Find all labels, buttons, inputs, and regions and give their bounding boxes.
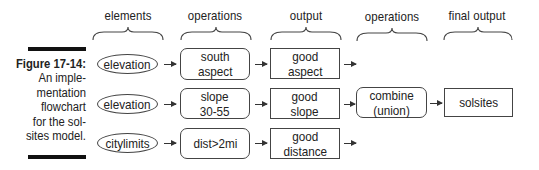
operation-slope-30-55: slope30-55 bbox=[180, 88, 250, 119]
header-operations: operations bbox=[171, 8, 259, 23]
header-elements: elements bbox=[84, 8, 172, 23]
output-good-distance: gooddistance bbox=[270, 128, 340, 159]
element-elevation-2: elevation bbox=[97, 94, 158, 114]
operation-south-aspect: southaspect bbox=[180, 48, 250, 80]
arrow-icon bbox=[255, 104, 267, 105]
caption-bottom-bar bbox=[28, 155, 86, 159]
arrow-icon bbox=[164, 64, 176, 65]
caption-line: flowchart bbox=[5, 100, 86, 114]
brace-final-output bbox=[443, 26, 513, 42]
header-output: output bbox=[262, 8, 350, 23]
element-elevation-1: elevation bbox=[97, 54, 158, 74]
element-citylimits: citylimits bbox=[97, 133, 158, 153]
operation-combine-union: combine(union) bbox=[356, 87, 427, 118]
caption-top-bar bbox=[28, 47, 86, 51]
figure-label: Figure 17-14: bbox=[5, 57, 86, 71]
header-operations-2: operations bbox=[348, 9, 436, 24]
arrow-icon bbox=[164, 143, 176, 144]
operation-dist-2mi: dist>2mi bbox=[180, 128, 250, 159]
brace-operations-2 bbox=[356, 27, 428, 43]
final-output-solsites: solsites bbox=[444, 88, 513, 117]
brace-operations bbox=[180, 26, 252, 42]
arrow-icon bbox=[344, 143, 356, 144]
caption-line: An imple- bbox=[5, 71, 86, 85]
caption-line: mentation bbox=[5, 86, 86, 100]
caption-line: sites model. bbox=[5, 129, 86, 143]
arrow-icon bbox=[430, 103, 442, 104]
brace-elements bbox=[92, 26, 164, 42]
output-good-aspect: goodaspect bbox=[270, 48, 340, 79]
arrow-icon bbox=[255, 143, 267, 144]
arrow-icon bbox=[344, 104, 355, 105]
arrow-icon bbox=[255, 64, 267, 65]
brace-output bbox=[270, 26, 342, 42]
header-final-output: final output bbox=[433, 8, 521, 23]
figure-caption: Figure 17-14: An imple- mentation flowch… bbox=[5, 57, 86, 143]
caption-line: for the sol- bbox=[5, 115, 86, 129]
arrow-icon bbox=[164, 104, 176, 105]
arrow-icon bbox=[344, 64, 356, 65]
output-good-slope: goodslope bbox=[270, 88, 340, 119]
